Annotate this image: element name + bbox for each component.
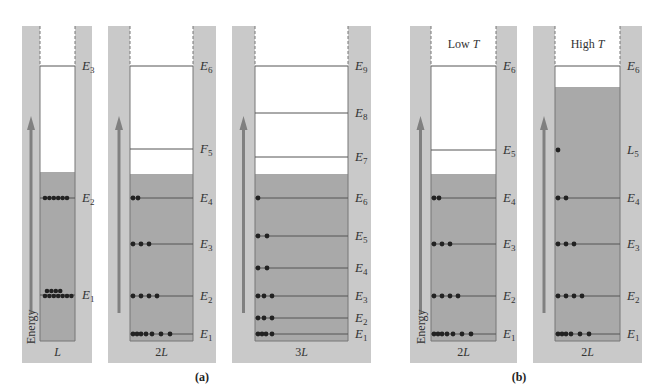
electron-dot [432, 196, 437, 201]
electron-dot [440, 332, 445, 337]
well-panel-2L-lowT: EnergyE6E5E4E3E2E12LLow T [410, 26, 517, 363]
electron-dot [65, 294, 70, 299]
electron-dot [168, 332, 173, 337]
occupied-region [555, 87, 620, 341]
electron-dot [43, 196, 48, 201]
electron-dot [572, 294, 577, 299]
electron-dot [437, 196, 442, 201]
electron-dot [65, 196, 70, 201]
electron-dot [60, 294, 65, 299]
electron-dot [52, 294, 57, 299]
electron-dot [144, 332, 149, 337]
electron-dot [270, 294, 275, 299]
electron-dot [448, 242, 453, 247]
electron-dot [45, 289, 50, 294]
electron-dot [564, 294, 569, 299]
electron-dot [136, 196, 141, 201]
electron-dot [139, 242, 144, 247]
electron-dot [564, 242, 569, 247]
electron-dot [256, 294, 261, 299]
electron-dot [580, 294, 585, 299]
electron-dot [456, 294, 461, 299]
well-width-label: 3L [295, 345, 308, 359]
well-width-label: 2L [457, 345, 470, 359]
electron-dot [270, 316, 275, 321]
level-label: E1 [81, 287, 94, 304]
electron-dot [572, 242, 577, 247]
level-label: E3 [81, 58, 95, 75]
electron-dot [432, 294, 437, 299]
electron-dot [159, 332, 164, 337]
electron-dot [440, 294, 445, 299]
electron-dot [460, 332, 465, 337]
electron-dot [265, 234, 270, 239]
part-label: (a) [195, 370, 209, 384]
electron-dot [256, 196, 261, 201]
electron-dot [262, 294, 267, 299]
electron-dot [43, 294, 48, 299]
electron-dot [264, 332, 269, 337]
electron-dot [69, 294, 74, 299]
electron-dot [432, 242, 437, 247]
well-panel-L: EnergyE3E2E1L [22, 26, 95, 363]
electron-dot [265, 266, 270, 271]
well-width-label: 2L [581, 345, 594, 359]
well-panel-3L: E9E8E7E6E5E4E3E2E13L [232, 26, 371, 363]
electron-dot [469, 332, 474, 337]
electron-dot [564, 332, 569, 337]
electron-dot [131, 196, 136, 201]
electron-dot [556, 294, 561, 299]
electron-dot [556, 196, 561, 201]
electron-dot [556, 148, 561, 153]
well-width-label: L [53, 345, 61, 359]
electron-dot [131, 294, 136, 299]
electron-dot [262, 316, 267, 321]
electron-dot [52, 196, 57, 201]
electron-dot [270, 332, 275, 337]
electron-dot [131, 242, 136, 247]
electron-dot [47, 196, 52, 201]
electron-dot [587, 332, 592, 337]
electron-dot [58, 289, 63, 294]
electron-dot [60, 196, 65, 201]
energy-axis-label: Energy [414, 310, 428, 344]
electron-dot [56, 294, 61, 299]
electron-dot [155, 294, 160, 299]
well-panel-2L-a: E6F5E4E3E2E12L [108, 26, 216, 363]
electron-dot [147, 242, 152, 247]
part-label: (b) [512, 370, 527, 384]
electron-dot [147, 294, 152, 299]
electron-dot [445, 332, 450, 337]
electron-dot [139, 332, 144, 337]
electron-dot [150, 332, 155, 337]
electron-dot [451, 332, 456, 337]
electron-dot [448, 294, 453, 299]
level-label: E2 [81, 190, 94, 207]
electron-dot [564, 196, 569, 201]
well-width-label: 2L [155, 345, 168, 359]
electron-dot [256, 266, 261, 271]
electron-dot [49, 289, 54, 294]
occupied-region [255, 174, 348, 341]
electron-dot [139, 294, 144, 299]
temperature-label: High T [571, 37, 606, 51]
electron-dot [56, 196, 61, 201]
electron-dot [54, 289, 59, 294]
electron-dot [578, 332, 583, 337]
electron-dot [256, 316, 261, 321]
electron-dot [556, 242, 561, 247]
energy-level-diagram: EnergyE3E2E1LE6F5E4E3E2E12LE9E8E7E6E5E4E… [0, 0, 664, 391]
energy-axis-label: Energy [24, 310, 38, 344]
electron-dot [47, 294, 52, 299]
electron-dot [256, 234, 261, 239]
temperature-label: Low T [448, 37, 481, 51]
electron-dot [440, 242, 445, 247]
well-panel-2L-highT: E6L5E4E3E2E12LHigh T [533, 26, 642, 363]
electron-dot [569, 332, 574, 337]
